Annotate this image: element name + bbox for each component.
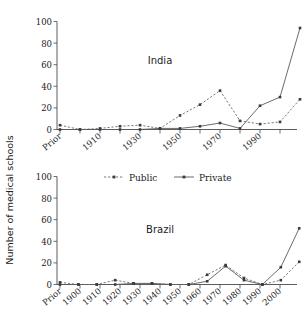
y-tick-label: 80	[41, 39, 52, 49]
data-point-marker	[99, 127, 102, 130]
data-point-marker	[59, 281, 62, 284]
data-point-marker	[299, 98, 302, 101]
x-tick-label: 1970	[200, 131, 223, 153]
data-point-marker	[239, 120, 242, 123]
data-point-marker	[299, 27, 302, 30]
y-tick-label: 20	[41, 103, 52, 113]
data-point-marker	[279, 121, 282, 124]
data-point-marker	[114, 283, 117, 286]
data-point-marker	[206, 280, 209, 283]
x-axis-brazil: Prior 1900 1910 1920 1930 1940 1950 1960…	[40, 285, 297, 308]
data-point-marker	[206, 273, 209, 276]
panel-india: India 100 80 60 40 20 0	[36, 17, 302, 152]
panel-title-brazil: Brazil	[146, 224, 174, 235]
y-tick-label: 40	[41, 82, 52, 92]
legend-label-public: Public	[129, 173, 157, 183]
data-point-marker	[280, 279, 283, 282]
y-axis-india: 100 80 60 40 20 0	[36, 17, 57, 135]
x-tick-label: 1990	[240, 286, 263, 308]
x-axis-india: Prior 1910 1930 1950 1970 1990	[40, 130, 297, 153]
data-point-marker	[219, 122, 222, 125]
x-tick-label: 1940	[140, 286, 163, 308]
data-point-marker	[139, 128, 142, 131]
panel-brazil: Brazil 100 80 60 40 20 0	[36, 172, 301, 307]
y-axis-brazil: 100 80 60 40 20 0	[36, 172, 57, 290]
data-point-marker	[280, 266, 283, 269]
x-tick-label: 1950	[160, 286, 183, 308]
legend-label-private: Private	[199, 173, 232, 183]
x-tick-label: Prior	[40, 130, 64, 152]
legend-item-public: Public	[104, 173, 157, 183]
y-tick-label: 40	[41, 237, 52, 247]
y-tick-label: 60	[41, 60, 52, 70]
data-point-marker	[261, 283, 264, 286]
data-point-marker	[77, 283, 80, 286]
data-point-marker	[219, 89, 222, 92]
data-point-marker	[199, 103, 202, 106]
data-point-marker	[179, 114, 182, 117]
y-tick-label: 20	[41, 258, 52, 268]
y-tick-label: 0	[47, 280, 52, 290]
x-tick-label: 1910	[80, 286, 103, 308]
data-point-marker	[259, 123, 262, 126]
x-tick-label: 1980	[220, 286, 243, 308]
data-point-marker	[188, 283, 191, 286]
x-tick-label: 2000	[260, 286, 283, 308]
data-point-marker	[59, 128, 62, 131]
x-tick-label: 1910	[80, 131, 103, 153]
data-point-marker	[279, 96, 282, 99]
data-point-marker	[169, 283, 172, 286]
data-point-marker	[239, 127, 242, 130]
data-point-marker	[179, 127, 182, 130]
data-point-marker	[224, 264, 227, 267]
data-point-marker	[199, 125, 202, 128]
x-tick-label: 1960	[180, 286, 203, 308]
data-point-marker	[259, 104, 262, 107]
data-point-marker	[114, 279, 117, 282]
x-tick-label: 1920	[100, 286, 123, 308]
panel-title-india: India	[148, 55, 173, 66]
x-tick-label: 1950	[160, 131, 183, 153]
x-tick-label: 1990	[240, 131, 263, 153]
y-tick-label: 60	[41, 215, 52, 225]
x-tick-label: 1970	[200, 286, 223, 308]
y-tick-label: 80	[41, 194, 52, 204]
data-point-marker	[59, 124, 62, 127]
data-point-marker	[159, 127, 162, 130]
data-point-marker	[298, 227, 301, 230]
legend-item-private: Private	[174, 173, 232, 183]
data-point-marker	[132, 282, 135, 285]
data-point-marker	[151, 282, 154, 285]
x-tick-label: Prior	[40, 285, 64, 307]
data-point-marker	[243, 277, 246, 280]
x-tick-label: 1930	[120, 131, 143, 153]
data-point-marker	[119, 128, 122, 131]
legend-marker-public	[113, 176, 116, 179]
series-private-brazil	[59, 227, 301, 286]
legend-marker-private	[183, 176, 186, 179]
data-point-marker	[298, 261, 301, 264]
y-tick-label: 100	[36, 17, 52, 27]
x-tick-label: 1930	[120, 286, 143, 308]
y-axis-title: Number of medical schools	[4, 135, 15, 264]
series-public-india	[59, 89, 302, 130]
y-tick-label: 100	[36, 172, 52, 182]
x-tick-label: 1900	[60, 286, 83, 308]
data-point-marker	[139, 124, 142, 127]
data-point-marker	[79, 128, 82, 131]
legend: Public Private	[104, 173, 232, 183]
data-point-marker	[96, 283, 99, 286]
medical-schools-figure: Number of medical schools India 100 80 6…	[0, 0, 308, 331]
y-tick-label: 0	[47, 125, 52, 135]
series-public-brazil	[59, 261, 301, 286]
data-point-marker	[119, 125, 122, 128]
